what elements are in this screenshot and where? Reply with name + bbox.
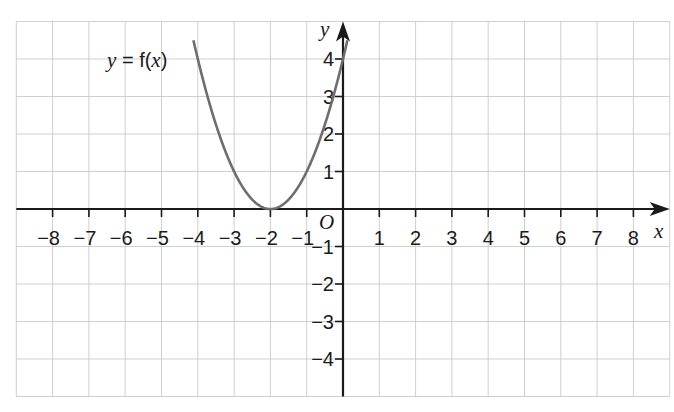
function-label: y = f(x) [105,48,167,72]
x-tick-label: −7 [73,227,96,249]
x-tick-label: 4 [483,227,494,249]
origin-label: O [319,210,334,234]
function-label-close: ) [161,49,168,71]
graph-canvas: −8−7−6−5−4−3−2−112345678−4−3−2−11234 y =… [0,0,674,412]
x-tick-label: 6 [555,227,566,249]
x-tick-label: −2 [255,227,278,249]
x-tick-label: −4 [182,227,205,249]
x-tick-label: 7 [592,227,603,249]
y-axis-label: y [318,17,330,41]
function-label-equals: = [116,49,139,71]
function-label-y: y [105,48,117,72]
x-tick-label: 2 [410,227,421,249]
function-label-f: f( [139,49,152,71]
y-tick-label: −2 [311,273,334,295]
x-axis-label: x [653,219,664,243]
x-tick-label: −3 [219,227,242,249]
y-tick-label: −4 [311,348,334,370]
axes [16,22,669,397]
y-tick-label: −3 [311,311,334,333]
x-tick-label: −6 [110,227,133,249]
y-tick-label: 4 [323,48,334,70]
x-tick-label: 3 [446,227,457,249]
x-tick-label: 1 [374,227,385,249]
x-tick-label: 5 [519,227,530,249]
x-tick-label: −8 [37,227,60,249]
x-tick-label: −5 [146,227,169,249]
x-tick-label: 8 [628,227,639,249]
y-tick-label: −1 [311,236,334,258]
y-tick-label: 1 [323,161,334,183]
